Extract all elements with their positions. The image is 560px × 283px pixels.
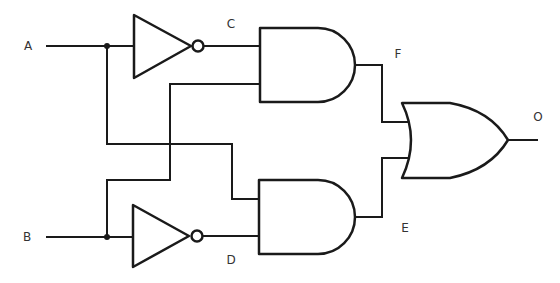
label-f: F: [395, 48, 402, 60]
wire-b-branch: [107, 84, 259, 237]
wire-a-branch: [107, 46, 259, 199]
and-gate-2: [259, 180, 355, 254]
circuit-svg: [0, 0, 560, 283]
and-gate-1: [260, 28, 355, 102]
label-d: D: [226, 254, 235, 266]
junction-b: [104, 234, 110, 240]
label-o: O: [533, 111, 542, 123]
logic-circuit-diagram: A B C D F E O: [0, 0, 560, 283]
or-gate: [402, 103, 508, 178]
wire-f: [355, 65, 410, 122]
label-c: C: [227, 18, 235, 30]
label-a: A: [24, 40, 32, 52]
not-gate-1: [134, 15, 204, 78]
junction-a: [104, 43, 110, 49]
not-gate-2: [133, 205, 203, 267]
label-e: E: [401, 222, 409, 234]
wire-e: [355, 158, 410, 217]
label-b: B: [23, 231, 31, 243]
